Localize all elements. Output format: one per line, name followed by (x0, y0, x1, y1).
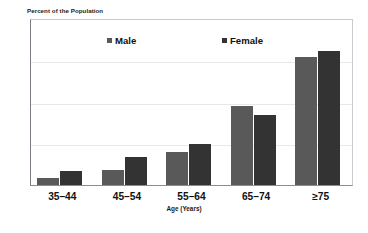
bar-female (254, 115, 276, 185)
legend-label-female: Female (230, 35, 263, 46)
bar-female (189, 144, 211, 185)
bar-male (166, 152, 188, 185)
bar-female (318, 51, 340, 185)
legend-item-female: Female (222, 35, 263, 46)
legend-swatch-female (222, 38, 227, 43)
bar-chart: Percent of the Population 16 12 8 4 0 Ma… (0, 0, 368, 233)
bar-group (31, 20, 96, 185)
legend-swatch-male (107, 38, 112, 43)
bar-male (37, 178, 59, 185)
bar-male (231, 106, 253, 185)
bar-male (102, 170, 124, 185)
bar-group (160, 20, 225, 185)
legend-item-male: Male (107, 35, 136, 46)
x-tick-label-4: ≥75 (278, 191, 364, 202)
bar-female (125, 157, 147, 185)
legend-label-male: Male (115, 35, 136, 46)
bar-male (295, 57, 317, 185)
plot-area (30, 19, 353, 186)
bar-group (289, 20, 354, 185)
x-axis-title: Age (Years) (0, 205, 368, 212)
bar-female (60, 171, 82, 185)
